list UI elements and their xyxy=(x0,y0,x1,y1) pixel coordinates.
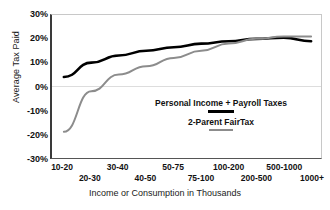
chart-screenshot: Average Tax Paid 30%20%10%0%-10%-20%-30%… xyxy=(0,0,330,210)
legend-entry-secondary: 2-Parent FairTax xyxy=(128,117,314,131)
y-tick-label: 0% xyxy=(10,82,48,92)
x-tick-label: 50-75 xyxy=(162,162,184,172)
y-tick-label: 10% xyxy=(10,57,48,67)
x-tick-label: 500-1000 xyxy=(266,162,302,172)
legend-label-primary: Personal Income + Payroll Taxes xyxy=(128,98,314,109)
series-line-0 xyxy=(64,38,311,77)
legend-label-secondary: 2-Parent FairTax xyxy=(128,117,314,128)
y-tick-label: 20% xyxy=(10,33,48,43)
y-tick-label: -20% xyxy=(10,130,48,140)
y-tick-label: -10% xyxy=(10,106,48,116)
x-tick-label: 75-100 xyxy=(188,173,214,183)
chart-legend: Personal Income + Payroll Taxes 2-Parent… xyxy=(128,98,314,135)
x-axis-title: Income or Consumption in Thousands xyxy=(0,188,330,198)
legend-entry-primary: Personal Income + Payroll Taxes xyxy=(128,98,314,113)
x-tick-label: 40-50 xyxy=(134,173,156,183)
legend-swatch-secondary xyxy=(209,129,233,131)
legend-swatch-primary xyxy=(208,110,234,113)
y-tick-label: 30% xyxy=(10,9,48,19)
x-tick-label: 200-500 xyxy=(241,173,272,183)
plot-svg xyxy=(52,15,321,158)
x-tick-label: 30-40 xyxy=(107,162,129,172)
x-axis-tick-labels: 10-2020-3030-4040-5050-7575-100100-20020… xyxy=(0,160,330,186)
x-tick-label: 1000+ xyxy=(300,173,324,183)
plot-area xyxy=(50,14,322,159)
x-tick-label: 10-20 xyxy=(51,162,73,172)
x-tick-label: 100-200 xyxy=(213,162,244,172)
x-tick-label: 20-30 xyxy=(79,173,101,183)
y-axis-tick-labels: 30%20%10%0%-10%-20%-30% xyxy=(10,14,48,159)
